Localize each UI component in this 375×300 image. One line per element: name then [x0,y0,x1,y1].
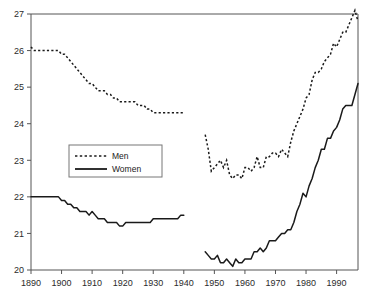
x-tick-label: 1990 [327,278,347,288]
plot-axis-frame [31,14,358,270]
y-tick-label: 24 [14,119,24,129]
x-tick-label: 1890 [21,278,41,288]
x-tick-label: 1950 [204,278,224,288]
x-axis-tick-group: 1890190019101920193019401950196019701980… [21,270,347,288]
x-tick-label: 1900 [52,278,72,288]
y-tick-label: 23 [14,156,24,166]
x-tick-label: 1910 [82,278,102,288]
series-group [31,10,358,266]
y-tick-label: 22 [14,192,24,202]
chart-container: 2021222324252627 18901900191019201930194… [0,0,375,300]
series-line-women [205,83,358,266]
x-tick-label: 1920 [113,278,133,288]
y-tick-label: 26 [14,46,24,56]
x-tick-label: 1930 [143,278,163,288]
y-tick-label: 25 [14,82,24,92]
series-line-men [31,47,184,113]
x-tick-label: 1970 [265,278,285,288]
y-tick-label: 21 [14,229,24,239]
x-tick-label: 1940 [174,278,194,288]
line-chart: 2021222324252627 18901900191019201930194… [0,0,375,300]
legend-label-men: Men [112,151,129,161]
chart-legend: MenWomen [69,145,162,177]
series-line-women [31,197,184,226]
series-line-men [205,10,358,178]
legend-label-women: Women [112,164,141,174]
x-tick-label: 1960 [235,278,255,288]
y-tick-label: 27 [14,9,24,19]
y-tick-label: 20 [14,265,24,275]
y-axis-tick-group: 2021222324252627 [14,9,31,275]
x-tick-label: 1980 [296,278,316,288]
